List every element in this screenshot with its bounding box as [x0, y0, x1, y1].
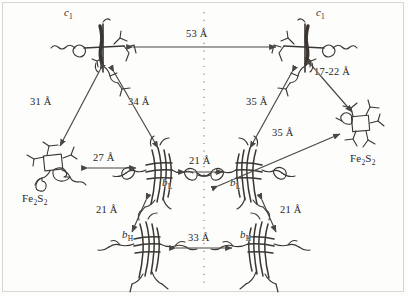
label-fes-cluster-left: Fe2S2 [22, 192, 48, 207]
label-heme-bH-right: bH [240, 228, 251, 243]
distance-label-c1right-fesright: 17-22 Å [314, 66, 350, 77]
label-heme-c1-right: c1 [316, 6, 325, 21]
label-heme-c1-left: c1 [64, 6, 73, 21]
distance-label-c1left-fesleft: 31 Å [30, 96, 52, 107]
distance-label-c1right-bLright: 35 Å [246, 96, 268, 107]
cofactor-arrangement-diagram: c1 c1 bL bL bH bH Fe2S2 Fe2S2 53 Å 31 Å … [0, 0, 408, 296]
distance-label-bLright-fesright: 35 Å [272, 127, 294, 138]
distance-label-c1-c1: 53 Å [186, 28, 208, 39]
arrow-bLright-to-bHright [262, 200, 276, 232]
distance-label-bLleft-bLright: 21 Å [189, 155, 211, 166]
label-heme-bL-left: bL [162, 176, 173, 191]
distance-label-bLleft-bHleft: 21 Å [96, 204, 118, 215]
label-fes-cluster-right: Fe2S2 [350, 152, 376, 167]
distance-arrows-layer [0, 0, 408, 296]
arrow-c1left-to-fesleft [60, 70, 100, 146]
distance-label-fesleft-bLleft: 27 Å [93, 152, 115, 163]
label-heme-bH-left: bH [122, 228, 133, 243]
distance-label-c1left-bLleft: 34 Å [128, 96, 150, 107]
distance-label-bHleft-bHright: 33 Å [188, 232, 210, 243]
arrow-bLleft-to-bHleft [132, 200, 146, 232]
arrow-c1left-to-bLleft [114, 72, 158, 148]
label-heme-bL-right: bL [230, 176, 241, 191]
distance-label-bLright-bHright: 21 Å [280, 204, 302, 215]
